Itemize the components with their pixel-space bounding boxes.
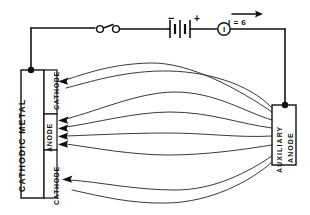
anode-label: ANODE bbox=[46, 123, 53, 152]
current-path-5 bbox=[66, 144, 272, 155]
auxiliary-anode-label-line2: ANODE bbox=[287, 132, 294, 163]
switch-blade[interactable] bbox=[103, 25, 113, 29]
battery-negative-label: − bbox=[168, 13, 174, 24]
current-path-envelope-bottom bbox=[72, 162, 272, 203]
auxiliary-anode-label-line1: AUXILIARY bbox=[276, 126, 283, 173]
current-path-4 bbox=[66, 133, 272, 136]
current-path-2-arrowhead bbox=[58, 117, 69, 124]
cathodic-protection-diagram: I bbox=[0, 0, 310, 215]
current-path-6-arrowhead bbox=[62, 176, 73, 183]
switch-contact-left[interactable] bbox=[97, 26, 104, 33]
current-path-2 bbox=[66, 92, 272, 120]
diagram-canvas: I bbox=[0, 0, 310, 215]
current-path-6 bbox=[70, 156, 272, 190]
current-path-3-arrowhead bbox=[58, 125, 69, 132]
cathodic-metal-label: CATHODIC METAL bbox=[18, 99, 27, 192]
current-value-label: I = 6 bbox=[228, 19, 246, 27]
ammeter-symbol: I bbox=[223, 25, 225, 34]
current-path-envelope-top bbox=[66, 71, 272, 108]
cathode-top-label: CATHODE bbox=[53, 71, 60, 110]
battery-positive-label: + bbox=[194, 14, 200, 24]
current-path-1 bbox=[65, 63, 272, 112]
current-path-3 bbox=[66, 112, 272, 128]
cathode-bottom-label: CATHODE bbox=[53, 166, 60, 205]
auxiliary-anode-junction-dot bbox=[282, 102, 288, 108]
switch-contact-right[interactable] bbox=[113, 26, 120, 33]
cathodic-metal-junction-dot bbox=[28, 67, 34, 73]
